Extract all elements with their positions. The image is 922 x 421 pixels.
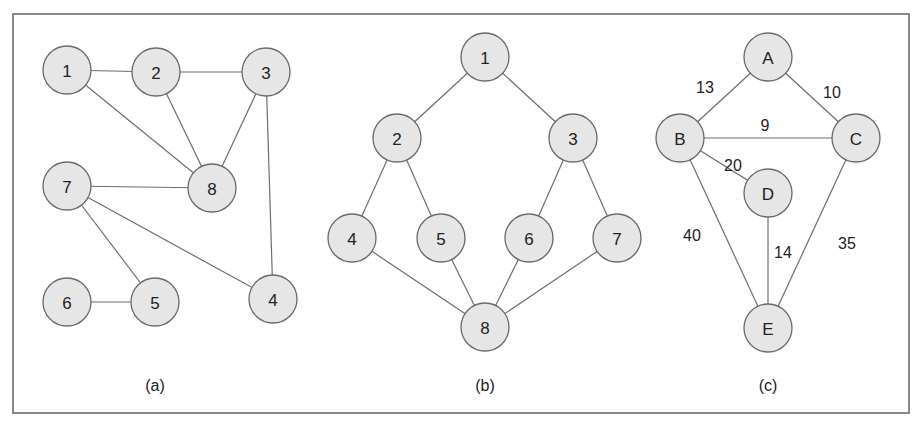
node-label: D [762, 185, 774, 204]
node-a-4: 4 [249, 275, 297, 323]
edge-weight-label: 9 [761, 117, 770, 134]
node-label: 4 [347, 230, 356, 249]
node-b-3: 3 [549, 114, 597, 162]
node-b-4: 4 [328, 214, 376, 262]
edge-weight-label: 20 [724, 157, 742, 174]
node-b-8: 8 [461, 303, 509, 351]
edge-weight-label: 14 [774, 244, 792, 261]
node-label: 7 [62, 178, 71, 197]
node-a-7: 7 [43, 162, 91, 210]
node-a-8: 8 [188, 164, 236, 212]
node-a-2: 2 [132, 48, 180, 96]
subfigure-caption-a: (a) [145, 377, 165, 394]
edge-a-7-4 [67, 186, 273, 299]
node-b-7: 7 [593, 214, 641, 262]
node-label: C [850, 130, 862, 149]
subfigure-caption-c: (c) [759, 377, 778, 394]
edge-weight-label: 40 [683, 227, 701, 244]
node-b-6: 6 [505, 214, 553, 262]
node-c-C: C [832, 114, 880, 162]
node-c-A: A [744, 33, 792, 81]
edge-a-3-4 [266, 72, 273, 299]
edge-weight-label: 35 [838, 235, 856, 252]
node-a-1: 1 [43, 46, 91, 94]
node-label: 1 [480, 49, 489, 68]
labels-layer: (a)(b)1310920401435(c) [145, 79, 856, 394]
edges-layer [67, 57, 856, 328]
node-a-3: 3 [242, 48, 290, 96]
node-c-D: D [744, 169, 792, 217]
node-b-5: 5 [417, 214, 465, 262]
node-label: 2 [151, 64, 160, 83]
subfigure-caption-b: (b) [475, 377, 495, 394]
nodes-layer: 1237865412345678ABCDE [43, 33, 880, 352]
node-label: 8 [207, 180, 216, 199]
node-label: 3 [568, 130, 577, 149]
edge-weight-label: 10 [823, 84, 841, 101]
node-c-E: E [744, 304, 792, 352]
node-label: 7 [612, 230, 621, 249]
edge-weight-label: 13 [696, 79, 714, 96]
node-label: 3 [261, 64, 270, 83]
node-label: 6 [524, 230, 533, 249]
node-b-2: 2 [373, 114, 421, 162]
node-label: 4 [268, 291, 277, 310]
graph-figure: 1237865412345678ABCDE (a)(b)131092040143… [0, 0, 922, 421]
node-a-5: 5 [131, 278, 179, 326]
node-a-6: 6 [43, 278, 91, 326]
node-label: E [762, 320, 773, 339]
node-c-B: B [656, 114, 704, 162]
node-label: 1 [62, 62, 71, 81]
node-label: 5 [436, 230, 445, 249]
node-b-1: 1 [461, 33, 509, 81]
node-label: B [674, 130, 685, 149]
node-label: 6 [62, 294, 71, 313]
node-label: 5 [150, 294, 159, 313]
node-label: 2 [392, 130, 401, 149]
edge-c-C-E [768, 138, 856, 328]
node-label: 8 [480, 319, 489, 338]
node-label: A [762, 49, 774, 68]
